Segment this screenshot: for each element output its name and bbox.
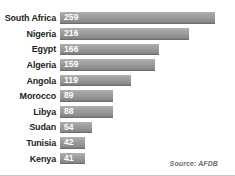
bar-rows: South Africa259Nigeria216Egypt166Algeria… bbox=[0, 11, 235, 167]
category-label: Tunisia bbox=[0, 139, 60, 148]
bar-chart: South Africa259Nigeria216Egypt166Algeria… bbox=[0, 0, 235, 176]
bar: 159 bbox=[60, 59, 155, 71]
category-label: Nigeria bbox=[0, 30, 60, 39]
bar-value-label: 89 bbox=[60, 91, 74, 100]
bar-value-label: 88 bbox=[60, 107, 74, 116]
bar: 89 bbox=[60, 90, 113, 102]
bar-row: Egypt166 bbox=[0, 42, 235, 58]
bar-value-label: 41 bbox=[60, 154, 74, 163]
category-label: Kenya bbox=[0, 155, 60, 164]
category-label: Algeria bbox=[0, 61, 60, 70]
category-label: Angola bbox=[0, 77, 60, 86]
bar-track: 259 bbox=[60, 11, 235, 27]
bar-row: Nigeria216 bbox=[0, 27, 235, 43]
bar-value-label: 54 bbox=[60, 123, 74, 132]
bar-row: Libya88 bbox=[0, 105, 235, 121]
bar: 166 bbox=[60, 44, 159, 56]
bar-row: Sudan54 bbox=[0, 120, 235, 136]
bar-row: Angola119 bbox=[0, 73, 235, 89]
bar: 216 bbox=[60, 28, 189, 40]
bar-track: 89 bbox=[60, 89, 235, 105]
bar-value-label: 159 bbox=[60, 60, 78, 69]
bar-value-label: 42 bbox=[60, 138, 74, 147]
source-note: Source: AFDB bbox=[170, 160, 218, 167]
bar-track: 42 bbox=[60, 136, 235, 152]
bar-track: 54 bbox=[60, 120, 235, 136]
bar-value-label: 216 bbox=[60, 29, 78, 38]
bar-track: 159 bbox=[60, 58, 235, 74]
bar-row: Morocco89 bbox=[0, 89, 235, 105]
bar-row: South Africa259 bbox=[0, 11, 235, 27]
category-label: South Africa bbox=[0, 14, 60, 23]
bar: 88 bbox=[60, 106, 113, 118]
category-label: Libya bbox=[0, 108, 60, 117]
bar: 259 bbox=[60, 12, 215, 24]
bar-track: 216 bbox=[60, 27, 235, 43]
bar: 42 bbox=[60, 137, 85, 149]
bar: 119 bbox=[60, 75, 131, 87]
bar-row: Algeria159 bbox=[0, 58, 235, 74]
category-label: Morocco bbox=[0, 92, 60, 101]
bar-value-label: 119 bbox=[60, 76, 78, 85]
bar-row: Tunisia42 bbox=[0, 136, 235, 152]
bar-track: 166 bbox=[60, 42, 235, 58]
category-label: Egypt bbox=[0, 45, 60, 54]
bar-track: 119 bbox=[60, 73, 235, 89]
bar: 41 bbox=[60, 153, 85, 165]
bar-track: 88 bbox=[60, 105, 235, 121]
bar-value-label: 259 bbox=[60, 13, 78, 22]
bar: 54 bbox=[60, 122, 92, 134]
category-label: Sudan bbox=[0, 123, 60, 132]
bar-value-label: 166 bbox=[60, 45, 78, 54]
